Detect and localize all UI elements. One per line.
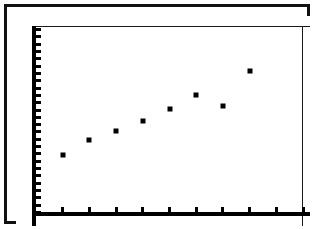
data-point [247,68,252,73]
data-point [194,93,199,98]
scatter-series [16,16,312,226]
figure-border [4,4,310,224]
data-point [60,152,65,157]
screenshot-root [0,0,316,229]
data-point [87,138,92,143]
data-point [140,119,145,124]
data-point [114,128,119,133]
data-point [167,107,172,112]
data-point [220,103,225,108]
plot-panel [16,16,312,226]
